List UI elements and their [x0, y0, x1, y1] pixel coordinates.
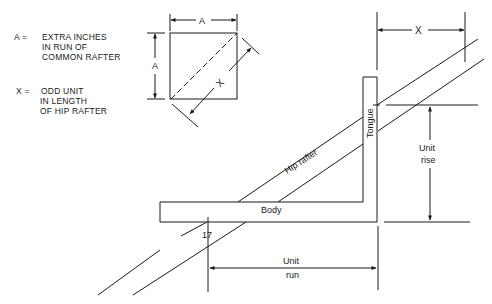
- x-dimension: [377, 12, 465, 70]
- inset-square: [147, 14, 259, 127]
- hip-rafter-label: Hip rafter: [283, 147, 319, 176]
- body-label: Body: [261, 205, 282, 215]
- inset-diagonal-dimension-label: X: [214, 76, 227, 89]
- tongue-label: Tongue: [365, 108, 375, 138]
- body-mark-label: 17: [202, 230, 212, 240]
- x-dimension-label: X: [415, 25, 422, 36]
- unit-rise-label-line-2: rise: [421, 155, 436, 165]
- unit-run-label-line-1: Unit: [283, 256, 300, 266]
- inset-top-dimension-label: A: [199, 16, 205, 26]
- unit-run-label-line-2: run: [286, 270, 299, 280]
- inset-left-dimension-label: A: [152, 61, 158, 71]
- unit-rise-label-line-1: Unit: [419, 143, 436, 153]
- hip-rafter-diagram: A A X X Body Tongue 17 Hip rafter Unit r…: [0, 0, 492, 304]
